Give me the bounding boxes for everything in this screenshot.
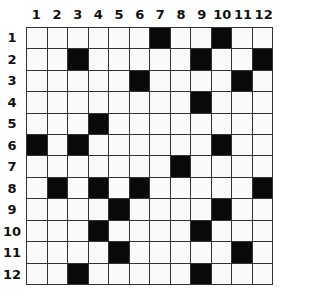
- white-cell[interactable]: [232, 28, 252, 48]
- white-cell[interactable]: [191, 135, 211, 155]
- white-cell[interactable]: [68, 114, 88, 134]
- white-cell[interactable]: [27, 28, 47, 48]
- white-cell[interactable]: [212, 49, 232, 69]
- white-cell[interactable]: [27, 71, 47, 91]
- white-cell[interactable]: [89, 135, 109, 155]
- white-cell[interactable]: [130, 221, 150, 241]
- white-cell[interactable]: [89, 156, 109, 176]
- white-cell[interactable]: [109, 28, 129, 48]
- white-cell[interactable]: [27, 221, 47, 241]
- white-cell[interactable]: [48, 221, 68, 241]
- white-cell[interactable]: [232, 221, 252, 241]
- white-cell[interactable]: [212, 264, 232, 284]
- white-cell[interactable]: [48, 156, 68, 176]
- white-cell[interactable]: [253, 221, 273, 241]
- white-cell[interactable]: [150, 135, 170, 155]
- white-cell[interactable]: [109, 71, 129, 91]
- white-cell[interactable]: [89, 264, 109, 284]
- white-cell[interactable]: [27, 49, 47, 69]
- white-cell[interactable]: [253, 28, 273, 48]
- white-cell[interactable]: [48, 92, 68, 112]
- white-cell[interactable]: [212, 92, 232, 112]
- white-cell[interactable]: [150, 114, 170, 134]
- white-cell[interactable]: [253, 114, 273, 134]
- white-cell[interactable]: [232, 199, 252, 219]
- white-cell[interactable]: [171, 221, 191, 241]
- white-cell[interactable]: [171, 178, 191, 198]
- white-cell[interactable]: [171, 71, 191, 91]
- white-cell[interactable]: [171, 49, 191, 69]
- white-cell[interactable]: [130, 114, 150, 134]
- white-cell[interactable]: [109, 92, 129, 112]
- white-cell[interactable]: [232, 178, 252, 198]
- white-cell[interactable]: [109, 178, 129, 198]
- white-cell[interactable]: [27, 178, 47, 198]
- white-cell[interactable]: [130, 28, 150, 48]
- white-cell[interactable]: [253, 199, 273, 219]
- white-cell[interactable]: [68, 92, 88, 112]
- white-cell[interactable]: [150, 242, 170, 262]
- white-cell[interactable]: [253, 156, 273, 176]
- white-cell[interactable]: [191, 156, 211, 176]
- white-cell[interactable]: [191, 71, 211, 91]
- white-cell[interactable]: [48, 71, 68, 91]
- white-cell[interactable]: [68, 28, 88, 48]
- white-cell[interactable]: [232, 156, 252, 176]
- white-cell[interactable]: [130, 264, 150, 284]
- white-cell[interactable]: [232, 135, 252, 155]
- white-cell[interactable]: [68, 221, 88, 241]
- white-cell[interactable]: [191, 242, 211, 262]
- white-cell[interactable]: [253, 242, 273, 262]
- white-cell[interactable]: [27, 242, 47, 262]
- white-cell[interactable]: [212, 71, 232, 91]
- white-cell[interactable]: [171, 92, 191, 112]
- white-cell[interactable]: [27, 156, 47, 176]
- white-cell[interactable]: [48, 264, 68, 284]
- white-cell[interactable]: [191, 178, 211, 198]
- white-cell[interactable]: [253, 264, 273, 284]
- white-cell[interactable]: [68, 178, 88, 198]
- white-cell[interactable]: [68, 71, 88, 91]
- white-cell[interactable]: [89, 49, 109, 69]
- white-cell[interactable]: [89, 199, 109, 219]
- white-cell[interactable]: [27, 264, 47, 284]
- white-cell[interactable]: [48, 135, 68, 155]
- white-cell[interactable]: [89, 242, 109, 262]
- white-cell[interactable]: [130, 92, 150, 112]
- white-cell[interactable]: [212, 114, 232, 134]
- white-cell[interactable]: [89, 92, 109, 112]
- white-cell[interactable]: [212, 242, 232, 262]
- white-cell[interactable]: [212, 156, 232, 176]
- white-cell[interactable]: [48, 49, 68, 69]
- white-cell[interactable]: [150, 71, 170, 91]
- white-cell[interactable]: [171, 199, 191, 219]
- white-cell[interactable]: [253, 92, 273, 112]
- white-cell[interactable]: [232, 49, 252, 69]
- white-cell[interactable]: [253, 71, 273, 91]
- white-cell[interactable]: [109, 49, 129, 69]
- white-cell[interactable]: [48, 199, 68, 219]
- white-cell[interactable]: [48, 242, 68, 262]
- white-cell[interactable]: [27, 92, 47, 112]
- white-cell[interactable]: [191, 114, 211, 134]
- white-cell[interactable]: [150, 156, 170, 176]
- white-cell[interactable]: [109, 135, 129, 155]
- white-cell[interactable]: [171, 135, 191, 155]
- white-cell[interactable]: [130, 199, 150, 219]
- white-cell[interactable]: [68, 199, 88, 219]
- white-cell[interactable]: [232, 114, 252, 134]
- white-cell[interactable]: [68, 242, 88, 262]
- white-cell[interactable]: [171, 242, 191, 262]
- white-cell[interactable]: [109, 264, 129, 284]
- white-cell[interactable]: [212, 221, 232, 241]
- white-cell[interactable]: [89, 28, 109, 48]
- white-cell[interactable]: [130, 242, 150, 262]
- white-cell[interactable]: [68, 156, 88, 176]
- white-cell[interactable]: [191, 199, 211, 219]
- white-cell[interactable]: [150, 264, 170, 284]
- white-cell[interactable]: [109, 114, 129, 134]
- white-cell[interactable]: [27, 114, 47, 134]
- white-cell[interactable]: [191, 28, 211, 48]
- white-cell[interactable]: [171, 114, 191, 134]
- white-cell[interactable]: [232, 264, 252, 284]
